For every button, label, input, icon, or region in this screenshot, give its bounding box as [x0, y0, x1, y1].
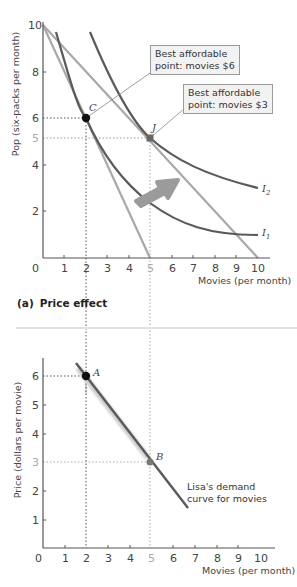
svg-text:4: 4 [32, 159, 39, 172]
svg-text:4: 4 [126, 262, 133, 275]
svg-text:6: 6 [32, 370, 39, 383]
panel-a-title-text: Price effect [40, 297, 107, 309]
callout-c-line2: point: movies $6 [155, 60, 235, 72]
svg-text:6: 6 [170, 552, 177, 565]
demand-label-line2: curve for movies [187, 493, 267, 505]
svg-text:5: 5 [32, 132, 39, 145]
svg-text:2: 2 [83, 552, 90, 565]
point-j [147, 135, 154, 142]
svg-text:5: 5 [148, 552, 155, 565]
curve-i2-label: I2 [261, 183, 271, 197]
svg-text:9: 9 [235, 552, 242, 565]
svg-text:4: 4 [127, 552, 134, 565]
svg-text:5: 5 [147, 262, 154, 275]
svg-text:6: 6 [169, 262, 176, 275]
svg-text:10: 10 [251, 262, 265, 275]
demand-label-line1: Lisa's demand [187, 481, 267, 493]
point-c [82, 114, 90, 122]
svg-text:1: 1 [62, 552, 69, 565]
svg-text:1: 1 [61, 262, 68, 275]
demand-curve [76, 363, 188, 508]
shift-arrow-icon [136, 180, 178, 206]
panel-b-chart: A B 6 5 4 3 2 1 0 1 2 3 4 [12, 358, 295, 576]
svg-text:4: 4 [32, 428, 39, 441]
svg-text:7: 7 [192, 552, 199, 565]
point-b-label: B [155, 451, 163, 462]
panel-b-x-axis-label: Movies (per month) [202, 565, 295, 576]
svg-text:10: 10 [28, 19, 42, 32]
panel-a-x-axis-label: Movies (per month) [198, 275, 291, 286]
svg-text:8: 8 [32, 66, 39, 79]
point-a-label: A [92, 367, 100, 378]
point-b [147, 459, 154, 466]
svg-text:2: 2 [32, 205, 39, 218]
callout-j-line1: Best affordable [188, 87, 268, 99]
point-a [82, 372, 90, 380]
callout-j-line2: point: movies $3 [188, 99, 268, 111]
panel-b-y-ticks: 6 5 4 3 2 1 [32, 370, 46, 527]
svg-text:3: 3 [104, 262, 111, 275]
svg-text:7: 7 [190, 262, 197, 275]
callout-best-affordable-3: Best affordable point: movies $3 [183, 84, 273, 114]
panel-a-y-axis-label: Pop (six-packs per month) [10, 32, 21, 156]
panel-b-y-axis-label: Price (dollars per movie) [12, 382, 23, 498]
svg-text:6: 6 [32, 112, 39, 125]
panel-a-letter: (a) [17, 297, 34, 309]
svg-text:3: 3 [32, 456, 39, 469]
curve-i1-label: I1 [261, 227, 270, 241]
demand-curve-label: Lisa's demand curve for movies [187, 481, 267, 505]
svg-text:3: 3 [105, 552, 112, 565]
svg-text:1: 1 [32, 514, 39, 527]
svg-text:8: 8 [212, 262, 219, 275]
panel-divider [16, 327, 297, 329]
point-c-label: C [89, 102, 97, 113]
callout-c-line1: Best affordable [155, 48, 235, 60]
svg-text:8: 8 [214, 552, 221, 565]
point-j-label: J [150, 122, 157, 133]
svg-text:10: 10 [254, 552, 268, 565]
svg-text:2: 2 [32, 485, 39, 498]
panel-a-title: (a)Price effect [17, 297, 107, 309]
svg-text:5: 5 [32, 399, 39, 412]
svg-text:2: 2 [83, 262, 90, 275]
svg-text:0: 0 [32, 262, 39, 275]
callout-best-affordable-6: Best affordable point: movies $6 [150, 45, 240, 75]
svg-text:9: 9 [233, 262, 240, 275]
svg-text:0: 0 [35, 552, 42, 565]
